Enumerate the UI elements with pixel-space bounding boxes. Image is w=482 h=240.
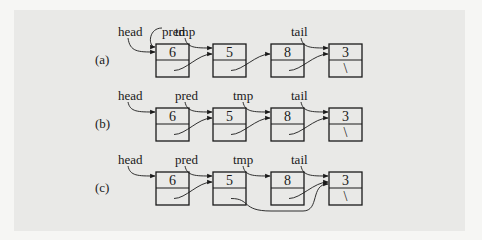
null-link-symbol: \ [344, 125, 348, 140]
pointer-label-tmp: tmp [233, 152, 253, 167]
pointer-arrow [128, 102, 155, 112]
pointer-label-head: head [118, 24, 143, 39]
pointer-label-tail: tail [291, 88, 308, 103]
pointer-arrow [128, 38, 155, 52]
node-value: 6 [169, 173, 176, 188]
row-c: (c)6583\headpredtmptail [95, 152, 362, 211]
list-node: 3\ [329, 108, 362, 141]
node-value: 6 [169, 45, 176, 60]
node-value: 5 [226, 45, 233, 60]
next-link-arrow [174, 118, 212, 135]
node-value: 3 [342, 173, 349, 188]
pointer-label-head: head [118, 88, 143, 103]
node-value: 3 [342, 45, 349, 60]
node-value: 5 [226, 109, 233, 124]
next-link-arrow [289, 118, 328, 135]
list-node: 8 [271, 108, 304, 141]
node-value: 8 [284, 173, 291, 188]
pointer-label-pred: pred [175, 88, 199, 103]
pointer-arrow [301, 38, 328, 48]
pointer-arrow [301, 102, 328, 112]
list-node: 3\ [329, 172, 362, 205]
row-b: (b)6583\headpredtmptail [95, 88, 362, 141]
row-a: (a)6583\headpredtmptail [95, 24, 362, 77]
node-value: 8 [284, 45, 291, 60]
pointer-arrow [128, 166, 155, 176]
node-value: 6 [169, 109, 176, 124]
row-label: (a) [95, 52, 109, 67]
node-value: 8 [284, 109, 291, 124]
list-node: 6 [156, 44, 189, 77]
list-node: 3\ [329, 44, 362, 77]
list-node: 8 [271, 172, 304, 205]
list-node: 6 [156, 172, 189, 205]
next-link-arrow [289, 54, 328, 71]
next-link-arrow [174, 182, 212, 199]
pointer-arrow [243, 102, 270, 112]
null-link-symbol: \ [344, 189, 348, 204]
node-value: 5 [226, 173, 233, 188]
list-node: 8 [271, 44, 304, 77]
list-node: 5 [213, 44, 246, 77]
list-node: 5 [213, 108, 246, 141]
pointer-label-tmp: tmp [175, 24, 195, 39]
next-link-arrow [289, 182, 328, 199]
next-link-arrow [231, 118, 270, 135]
pointer-label-tail: tail [291, 152, 308, 167]
pointer-label-pred: pred [175, 152, 199, 167]
row-label: (c) [95, 180, 109, 195]
next-link-arrow [231, 54, 270, 71]
row-label: (b) [95, 116, 110, 131]
next-link-arrow [174, 54, 212, 71]
node-value: 3 [342, 109, 349, 124]
pointer-label-head: head [118, 152, 143, 167]
null-link-symbol: \ [344, 61, 348, 76]
pointer-label-tmp: tmp [233, 88, 253, 103]
pointer-arrow [243, 166, 270, 176]
pointer-label-tail: tail [291, 24, 308, 39]
list-node: 6 [156, 108, 189, 141]
linked-list-diagram: (a)6583\headpredtmptail(b)6583\headpredt… [0, 0, 482, 240]
pointer-arrow [301, 166, 328, 176]
